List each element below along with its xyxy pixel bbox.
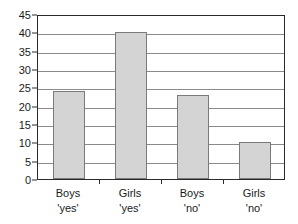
y-tick-label: 25 [19, 83, 31, 94]
x-tick-mark [99, 180, 100, 184]
y-tick-label: 10 [19, 138, 31, 149]
y-tick-label: 0 [25, 175, 31, 186]
x-category-label: Boys'yes' [37, 186, 99, 216]
bar [177, 95, 209, 179]
y-tick-label: 15 [19, 120, 31, 131]
x-category-label-line2: 'no' [161, 201, 223, 216]
x-category-label: Boys'no' [161, 186, 223, 216]
y-tick-label: 20 [19, 101, 31, 112]
bar-chart: 051015202530354045 Boys'yes'Girls'yes'Bo… [0, 0, 298, 224]
x-category-label-line1: Girls [243, 187, 266, 199]
x-category-label-line1: Boys [56, 187, 80, 199]
y-tick-label: 30 [19, 65, 31, 76]
x-tick-mark [161, 180, 162, 184]
x-category-label-line2: 'yes' [37, 201, 99, 216]
x-axis: Boys'yes'Girls'yes'Boys'no'Girls'no' [37, 186, 285, 220]
y-axis: 051015202530354045 [0, 15, 31, 180]
bar [53, 91, 85, 179]
y-tick-label: 35 [19, 46, 31, 57]
x-category-label-line2: 'yes' [99, 201, 161, 216]
x-category-label-line1: Boys [180, 187, 204, 199]
x-tick-mark [223, 180, 224, 184]
plot-area [37, 15, 285, 180]
bars [38, 16, 284, 179]
x-axis-ticks [37, 180, 285, 185]
y-tick-label: 40 [19, 28, 31, 39]
y-tick-label: 45 [19, 10, 31, 21]
bar [115, 32, 147, 179]
y-tick-label: 5 [25, 156, 31, 167]
x-category-label-line2: 'no' [223, 201, 285, 216]
x-category-label: Girls'no' [223, 186, 285, 216]
x-category-label-line1: Girls [119, 187, 142, 199]
bar [239, 142, 271, 179]
x-category-label: Girls'yes' [99, 186, 161, 216]
